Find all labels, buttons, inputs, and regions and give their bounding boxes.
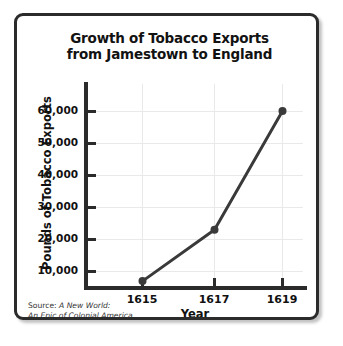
plot-area [87,84,303,288]
chart-title: Growth of Tobacco Exports from Jamestown… [17,30,319,62]
chart-title-line-1: Growth of Tobacco Exports [17,30,319,46]
source-note: Source: A New World: An Epic of Colonial… [28,301,133,320]
chart-card: Growth of Tobacco Exports from Jamestown… [14,13,319,320]
gridline-horizontal-20000 [87,239,303,240]
x-axis-tick-1619 [281,278,284,287]
gridline-horizontal-30000 [87,207,303,208]
x-axis-tick-1615 [141,278,144,287]
y-axis-tick-20000 [88,238,96,241]
source-title-line-2: An Epic of Colonial America [28,311,133,321]
x-axis-label-1617: 1617 [186,293,242,306]
gridline-horizontal-60000 [87,111,303,112]
y-axis-tick-60000 [88,110,96,113]
source-title-line-1: A New World: [59,301,110,310]
y-axis-tick-30000 [88,206,96,209]
y-axis-tick-50000 [88,142,96,145]
y-axis-title: Pounds of Tobacco Exports [40,83,54,283]
y-axis-tick-10000 [88,270,96,273]
source-prefix: Source: [28,301,59,310]
gridline-vertical-1615 [142,84,143,288]
x-axis-line [84,286,307,290]
gridline-vertical-1617 [214,84,215,288]
chart-title-line-2: from Jamestown to England [17,46,319,62]
gridline-vertical-1619 [282,84,283,288]
y-axis-tick-40000 [88,174,96,177]
gridline-horizontal-50000 [87,143,303,144]
x-axis-label-1619: 1619 [254,293,310,306]
x-axis-tick-1617 [213,278,216,287]
gridline-horizontal-40000 [87,175,303,176]
gridline-horizontal-10000 [87,271,303,272]
y-axis-line [84,82,88,290]
source-note-line-1: Source: A New World: [28,301,133,311]
